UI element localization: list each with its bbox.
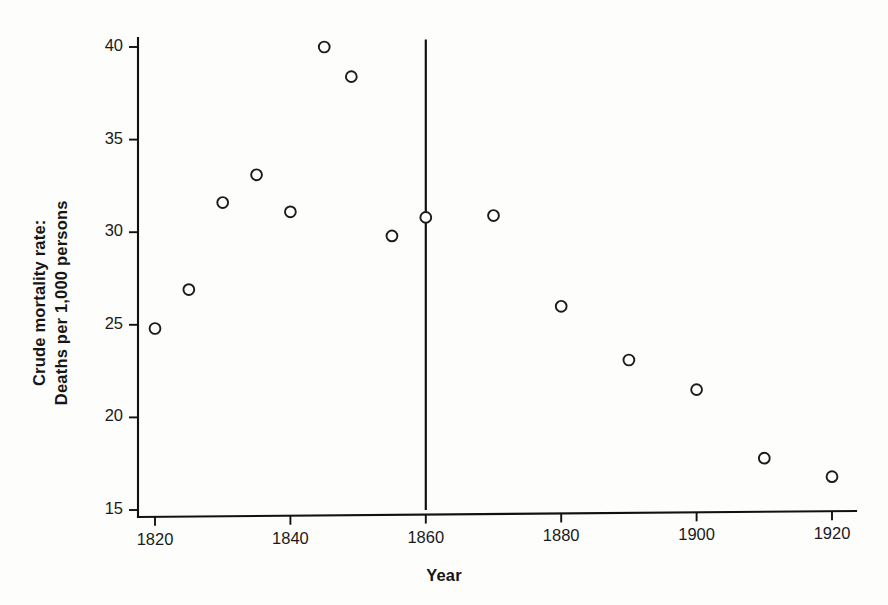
- x-tick-label-1880: 1880: [526, 526, 596, 545]
- data-point-1820: [150, 323, 161, 334]
- y-tick-label-20: 20: [77, 406, 123, 425]
- data-point-1830: [217, 197, 228, 208]
- y-tick-label-15: 15: [77, 499, 123, 518]
- data-point-1870: [488, 210, 499, 221]
- y-tick-label-40: 40: [77, 36, 123, 55]
- x-tick-label-1920: 1920: [797, 524, 867, 543]
- data-point-1840: [285, 206, 296, 217]
- data-point-1890: [624, 355, 635, 366]
- y-tick-label-30: 30: [77, 221, 123, 240]
- data-point-1910: [759, 453, 770, 464]
- x-axis-line: [138, 511, 856, 517]
- scatter-plot-canvas: [0, 0, 888, 605]
- axis-ticks-group: [129, 47, 832, 526]
- data-point-1920: [827, 471, 838, 482]
- x-tick-label-1820: 1820: [120, 530, 190, 549]
- data-point-1855: [387, 231, 398, 242]
- axes-group: [138, 38, 856, 517]
- x-axis-title: Year: [0, 566, 888, 585]
- x-tick-label-1900: 1900: [662, 525, 732, 544]
- data-point-1825: [183, 284, 194, 295]
- data-markers-group: [150, 42, 838, 482]
- data-point-1835: [251, 169, 262, 180]
- data-point-1860: [420, 212, 431, 223]
- data-point-1880: [556, 301, 567, 312]
- chart-figure: Crude mortality rate: Deaths per 1,000 p…: [0, 0, 888, 605]
- data-point-1900: [691, 384, 702, 395]
- data-point-1849: [346, 71, 357, 82]
- x-tick-label-1860: 1860: [391, 528, 461, 547]
- data-point-1845: [319, 42, 330, 53]
- y-tick-label-35: 35: [77, 129, 123, 148]
- x-tick-label-1840: 1840: [255, 529, 325, 548]
- y-tick-label-25: 25: [77, 314, 123, 333]
